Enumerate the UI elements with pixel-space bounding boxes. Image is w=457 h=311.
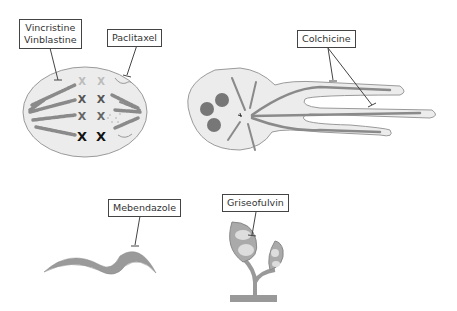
svg-text:X: X (97, 93, 106, 106)
label-vinblastine: Vinblastine (24, 34, 77, 46)
mitotic-spindle-figure: X X X X X X X X (23, 67, 147, 157)
neutrophil-figure (188, 68, 436, 150)
label-colchicine: Colchicine (297, 30, 356, 48)
svg-text:X: X (97, 76, 105, 87)
svg-text:X: X (78, 93, 87, 106)
svg-text:X: X (96, 129, 106, 144)
label-vincristine: Vincristine (24, 22, 77, 34)
label-griseofulvin: Griseofulvin (222, 194, 289, 212)
fungus-figure (230, 222, 284, 302)
label-vinca-alkaloids: Vincristine Vinblastine (19, 19, 82, 49)
label-mebendazole: Mebendazole (108, 199, 181, 217)
worm-figure (44, 252, 156, 275)
svg-text:X: X (78, 110, 87, 123)
svg-text:X: X (97, 110, 106, 123)
svg-text:X: X (77, 129, 87, 144)
svg-text:X: X (78, 76, 86, 87)
label-paclitaxel: Paclitaxel (107, 29, 162, 47)
